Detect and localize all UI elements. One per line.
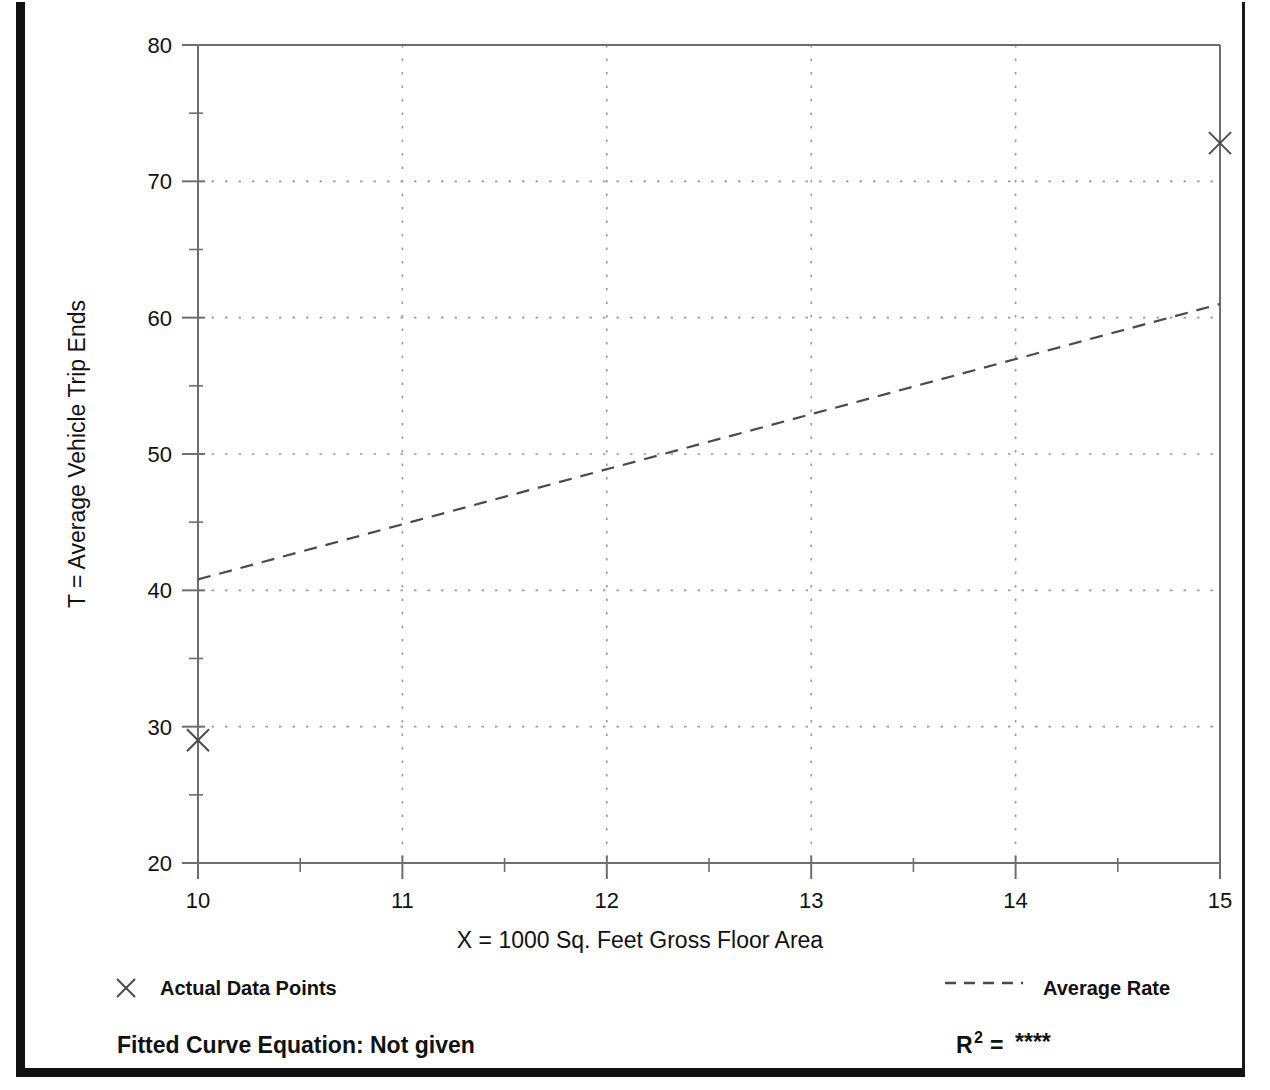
y-axis-tick-labels: 20304050607080 (148, 33, 172, 876)
x-marker-icon (117, 979, 135, 997)
r-squared-label: R 2 = **** (956, 1029, 1051, 1058)
r-squared-equals: = (990, 1032, 1003, 1058)
y-axis-title: T = Average Vehicle Trip Ends (64, 300, 90, 608)
y-tick-label-20: 20 (148, 851, 172, 876)
legend-label-actual-data-points: Actual Data Points (160, 977, 337, 999)
x-axis-minor-ticks (300, 858, 1118, 872)
x-tick-label-14: 14 (1003, 888, 1027, 913)
y-tick-label-40: 40 (148, 578, 172, 603)
average-rate-trendline (198, 304, 1220, 579)
y-tick-label-50: 50 (148, 442, 172, 467)
x-tick-label-10: 10 (186, 888, 210, 913)
chart-page: 20304050607080 101112131415 X = 1000 Sq.… (0, 0, 1270, 1090)
legend-label-average-rate: Average Rate (1043, 977, 1170, 999)
x-tick-label-12: 12 (595, 888, 619, 913)
x-tick-label-13: 13 (799, 888, 823, 913)
x-axis-title: X = 1000 Sq. Feet Gross Floor Area (457, 927, 823, 953)
y-axis-major-ticks (182, 45, 205, 863)
legend-entry-actual-data-points: Actual Data Points (117, 977, 337, 999)
fitted-curve-equation-label: Fitted Curve Equation: Not given (117, 1032, 475, 1058)
r-squared-value: **** (1015, 1029, 1051, 1055)
scatter-chart: 20304050607080 101112131415 X = 1000 Sq.… (0, 0, 1270, 1090)
y-tick-label-30: 30 (148, 715, 172, 740)
x-tick-label-15: 15 (1208, 888, 1232, 913)
x-axis-tick-labels: 101112131415 (186, 888, 1232, 913)
x-tick-label-11: 11 (391, 888, 414, 913)
vertical-gridlines (402, 45, 1015, 863)
legend-entry-average-rate: Average Rate (945, 977, 1170, 999)
r-squared-exponent: 2 (974, 1029, 983, 1046)
plot-axes (198, 45, 1220, 863)
y-tick-label-70: 70 (148, 169, 172, 194)
horizontal-gridlines (198, 181, 1220, 726)
y-tick-label-60: 60 (148, 306, 172, 331)
trendline-average-rate (198, 304, 1220, 579)
y-tick-label-80: 80 (148, 33, 172, 58)
r-squared-base: R (956, 1032, 973, 1058)
